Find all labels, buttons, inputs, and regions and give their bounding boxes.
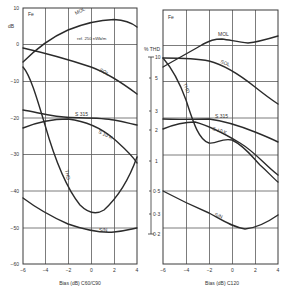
left-db-axis-label: dB [8,23,15,29]
svg-text:10: 10 [13,5,19,11]
right-sn-label: S/N [214,211,224,220]
left-sol-curve [23,48,137,94]
svg-text:0·5: 0·5 [153,188,160,194]
right-sn-curve [163,191,278,229]
right-chart: 10 5 3 2 1 0·5 0·3 0·2 % THD Fe MOL SOL … [144,10,280,286]
left-s10k-curve [23,119,137,163]
left-s315-label: S 315 [75,111,88,117]
svg-text:−30: −30 [11,151,20,157]
svg-text:−10: −10 [11,78,20,84]
svg-text:1: 1 [155,158,158,164]
svg-text:−40: −40 [11,188,20,194]
svg-text:−20: −20 [11,115,20,121]
left-chart: Fe dB MOL ref. 250 nWb/m SOL S 315 S 10 … [8,5,139,286]
svg-text:−6: −6 [20,267,26,273]
right-fe-label: Fe [168,14,174,20]
svg-text:2: 2 [254,267,257,273]
svg-text:4: 4 [277,267,280,273]
svg-text:2: 2 [113,267,116,273]
right-mol-label: MOL [218,31,229,37]
svg-text:−60: −60 [11,261,20,267]
right-plot-frame [163,10,278,264]
left-sn-curve [23,198,137,232]
right-s315-label: S 315 [215,113,228,119]
right-thd-axis-label: % THD [144,46,160,52]
right-x-tick-labels: −6 −4 −2 0 2 4 [160,267,279,273]
left-ref-label: ref. 250 nWb/m [77,36,107,41]
svg-text:−6: −6 [160,267,166,273]
svg-text:5: 5 [155,75,158,81]
svg-text:2: 2 [155,127,158,133]
svg-text:0: 0 [16,41,19,47]
left-x-tick-labels: −6 −4 −2 0 2 4 [20,267,138,273]
svg-text:−2: −2 [66,267,72,273]
right-x-axis-title: Bias (dB) C120 [205,280,239,286]
right-gridlines [163,10,278,264]
left-mol-label: MOL [74,5,87,15]
left-y-tick-labels: 10 0 −10 −20 −30 −40 −50 −60 [11,5,20,267]
svg-text:−2: −2 [207,267,213,273]
svg-text:4: 4 [136,267,139,273]
right-thd-scale: 10 5 3 2 1 0·5 0·3 0·2 [148,54,161,237]
svg-text:0·2: 0·2 [153,231,160,237]
svg-text:3: 3 [155,108,158,114]
svg-text:−50: −50 [11,225,20,231]
right-s10k-label: S 10 K [212,125,229,136]
left-fe-label: Fe [28,11,34,17]
svg-text:−4: −4 [43,267,49,273]
svg-text:10: 10 [155,54,161,60]
svg-text:0: 0 [231,267,234,273]
left-s10k-label: S 10 K [98,128,115,140]
left-sn-label: S/N [99,227,108,233]
svg-text:0·3: 0·3 [153,211,160,217]
left-x-axis-title: Bias (dB) C60/C90 [59,280,101,286]
svg-text:0: 0 [90,267,93,273]
svg-text:−4: −4 [184,267,190,273]
right-sol-curve [163,58,278,104]
bias-charts: Fe dB MOL ref. 250 nWb/m SOL S 315 S 10 … [0,0,283,291]
